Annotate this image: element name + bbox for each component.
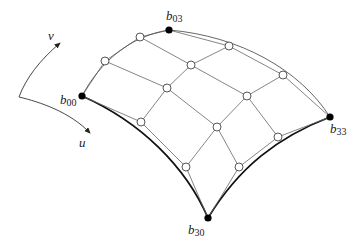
- control-net: [82, 30, 330, 218]
- boundary-curve-v0: [82, 96, 208, 218]
- control-point-b32: [274, 133, 282, 141]
- corner-labels: b00 b03 b30 b33: [60, 8, 347, 238]
- corner-point-b33: [326, 113, 333, 120]
- net-col-1: [105, 61, 239, 167]
- label-b33: b33: [330, 121, 347, 137]
- boundary-curve-u3: [169, 30, 330, 117]
- surface-boundary: [82, 96, 330, 218]
- boundary-curve-v3: [208, 117, 330, 218]
- v-axis-label: v: [48, 28, 54, 43]
- boundary-curve-u0: [82, 30, 169, 96]
- control-point-b20: [182, 163, 190, 171]
- control-point-b22: [243, 92, 251, 100]
- u-axis-label: u: [79, 135, 86, 150]
- control-point-b13: [225, 42, 233, 50]
- corner-point-b30: [204, 214, 211, 221]
- control-point-b23: [279, 71, 287, 79]
- label-b00: b00: [60, 92, 77, 108]
- net-row-0: [82, 30, 169, 96]
- control-point-b01: [101, 57, 109, 65]
- control-point-b31: [235, 163, 243, 171]
- parameter-axes: v u: [19, 28, 90, 150]
- control-point-b11: [163, 84, 171, 92]
- label-b30: b30: [188, 222, 205, 238]
- corner-control-points: [78, 26, 333, 221]
- control-point-b12: [187, 61, 195, 69]
- v-direction-arrow: [19, 43, 60, 97]
- corner-point-b03: [165, 26, 172, 33]
- net-col-0: [82, 96, 208, 218]
- net-row-3: [208, 117, 330, 218]
- control-point-b21: [213, 123, 221, 131]
- net-row-1: [141, 46, 229, 122]
- interior-control-points: [101, 33, 287, 171]
- net-col-3: [169, 30, 330, 117]
- corner-point-b00: [78, 92, 85, 99]
- net-col-2: [140, 37, 278, 137]
- bezier-patch-diagram: v u: [0, 0, 357, 240]
- label-b03: b03: [166, 8, 183, 24]
- control-point-b10: [137, 118, 145, 126]
- u-direction-arrow: [19, 97, 90, 133]
- control-point-b02: [136, 33, 144, 41]
